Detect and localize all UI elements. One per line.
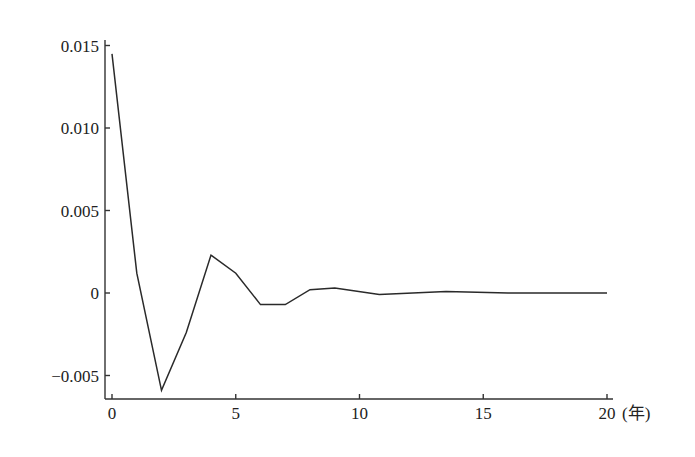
x-tick-label: 20 (599, 404, 616, 423)
y-axis: −0.00500.0050.0100.015 (51, 37, 110, 400)
y-tick-label: 0.015 (61, 37, 99, 56)
x-tick-label: 0 (108, 404, 117, 423)
x-tick-label: 15 (475, 404, 492, 423)
x-tick-label: 10 (351, 404, 368, 423)
x-axis: 05101520 (105, 394, 616, 423)
y-tick-label: 0.010 (61, 119, 99, 138)
y-tick-label: 0 (91, 284, 100, 303)
x-tick-label: 5 (232, 404, 241, 423)
y-tick-label: −0.005 (51, 367, 99, 386)
line-chart: −0.00500.0050.0100.015 05101520 (年) (0, 0, 695, 457)
data-line (112, 54, 607, 391)
y-tick-label: 0.005 (61, 202, 99, 221)
x-axis-unit-label: (年) (622, 404, 650, 423)
